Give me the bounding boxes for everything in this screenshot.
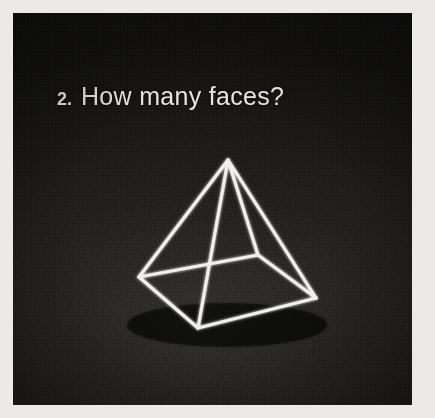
question-number: 2. — [57, 89, 72, 109]
question-line: 2.How many faces? — [57, 81, 284, 114]
background-gradient — [13, 13, 412, 405]
question-text: How many faces? — [81, 82, 284, 110]
photo-frame: 2.How many faces? — [0, 0, 435, 418]
photo-area: 2.How many faces? — [13, 13, 412, 405]
